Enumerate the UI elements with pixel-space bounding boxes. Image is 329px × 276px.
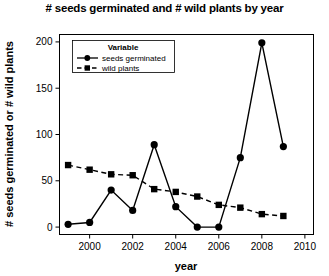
chart-plot-area: 200020022004200620082010 050100150200 ye… bbox=[0, 0, 329, 276]
data-point bbox=[151, 186, 157, 192]
y-tick-label: 0 bbox=[47, 222, 53, 233]
data-point bbox=[216, 202, 222, 208]
data-point bbox=[215, 223, 222, 230]
x-axis-title: year bbox=[175, 260, 198, 272]
data-point bbox=[108, 186, 115, 193]
x-axis-ticks bbox=[90, 235, 305, 239]
data-point bbox=[108, 171, 114, 177]
y-axis-title: # seeds germinated or # wild plants bbox=[3, 41, 15, 227]
y-tick-label: 200 bbox=[36, 36, 53, 47]
x-tick-label: 2010 bbox=[294, 241, 317, 252]
data-point bbox=[194, 193, 200, 199]
data-point bbox=[172, 203, 179, 210]
legend-marker bbox=[85, 65, 90, 70]
data-point bbox=[65, 221, 72, 228]
data-point bbox=[237, 204, 243, 210]
legend-title: Variable bbox=[108, 43, 139, 52]
data-point bbox=[280, 213, 286, 219]
x-tick-label: 2004 bbox=[165, 241, 188, 252]
legend-label: wild plants bbox=[101, 64, 139, 73]
y-tick-label: 100 bbox=[36, 129, 53, 140]
x-tick-label: 2008 bbox=[251, 241, 274, 252]
y-tick-label: 50 bbox=[41, 175, 53, 186]
y-axis-tick-labels: 050100150200 bbox=[36, 36, 53, 232]
data-point bbox=[258, 39, 265, 46]
y-axis-ticks bbox=[56, 42, 60, 227]
legend-label: seeds germinated bbox=[102, 54, 166, 63]
data-point bbox=[65, 162, 71, 168]
data-point bbox=[86, 219, 93, 226]
x-tick-label: 2000 bbox=[79, 241, 102, 252]
data-point bbox=[129, 172, 135, 178]
data-point bbox=[129, 207, 136, 214]
data-point bbox=[237, 154, 244, 161]
data-point bbox=[194, 223, 201, 230]
x-axis-tick-labels: 200020022004200620082010 bbox=[79, 241, 317, 252]
legend-marker bbox=[84, 55, 90, 61]
x-tick-label: 2006 bbox=[208, 241, 231, 252]
chart-legend: Variable seeds germinatedwild plants bbox=[73, 41, 175, 74]
data-point bbox=[86, 166, 92, 172]
y-tick-label: 150 bbox=[36, 83, 53, 94]
data-point bbox=[259, 211, 265, 217]
data-point bbox=[173, 189, 179, 195]
data-point bbox=[151, 141, 158, 148]
x-tick-label: 2002 bbox=[122, 241, 145, 252]
data-point bbox=[280, 143, 287, 150]
chart-page: # seeds germinated and # wild plants by … bbox=[0, 0, 329, 276]
